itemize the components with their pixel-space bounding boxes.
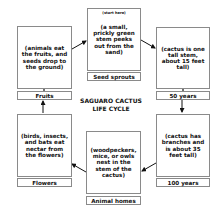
stage-box-100-years: (cactus has branches and is about 35 fee… (156, 114, 210, 177)
stage-label-50-years: 50 years (156, 91, 210, 100)
stage-box-50-years: (cactus is one tall stem, about 15 feet … (156, 27, 210, 89)
stage-description: (cactus has branches and is about 35 fee… (157, 133, 209, 158)
stage-label-seed-sprouts: Seed sprouts (87, 72, 141, 81)
stage-box-seed-sprouts: (start here) (a small, prickly green ste… (87, 8, 141, 71)
title-line-2: LIFE CYCLE (76, 105, 146, 113)
start-here-note: (start here) (88, 11, 140, 15)
stage-label-flowers: Flowers (17, 178, 72, 187)
stage-description: (birds, insects, and bats eat nectar fro… (18, 133, 71, 158)
arrow-seed-to-50 (141, 40, 155, 48)
arrow-100-to-animal (142, 163, 156, 171)
diagram-title: SAGUARO CACTUS LIFE CYCLE (76, 97, 146, 113)
arrow-animal-to-flowers (72, 164, 86, 172)
stage-box-animal-homes: (woodpeckers, mice, or owls nest in the … (86, 131, 141, 194)
stage-box-flowers: (birds, insects, and bats eat nectar fro… (17, 114, 72, 177)
title-line-1: SAGUARO CACTUS (76, 97, 146, 105)
stage-label-fruits: Fruits (17, 91, 72, 100)
stage-description: (woodpeckers, mice, or owls nest in the … (87, 147, 140, 178)
stage-label-animal-homes: Animal homes (86, 196, 141, 205)
stage-box-fruits: (animals eat the fruits, and seeds drop … (17, 26, 72, 89)
stage-description: (animals eat the fruits, and seeds drop … (18, 45, 71, 70)
arrow-fruits-to-seed (72, 41, 86, 49)
stage-label-100-years: 100 years (156, 178, 210, 187)
stage-description: (cactus is one tall stem, about 15 feet … (157, 46, 209, 71)
stage-description: (a small, prickly green stem peeks out f… (88, 24, 140, 55)
